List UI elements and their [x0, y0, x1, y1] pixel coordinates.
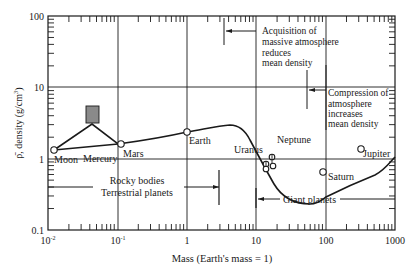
annotation-rocky-bodies: Rocky bodies Terrestrial planets	[48, 170, 219, 205]
y-axis-title: ρ̄, density (g/cm3)	[12, 87, 25, 158]
svg-text:Compression of: Compression of	[328, 88, 389, 98]
annotation-giant-planets: Giant planets	[256, 188, 395, 208]
y-tick-10: 10	[34, 82, 44, 93]
x-tick-1: 1	[185, 235, 190, 246]
y-tick-labels: 100 10 1 0.1	[29, 11, 44, 236]
label-mars: Mars	[123, 148, 144, 159]
svg-text:massive atmosphere: massive atmosphere	[262, 37, 339, 47]
mercury-range-box	[86, 106, 99, 123]
svg-text:atmosphere: atmosphere	[328, 99, 372, 109]
svg-text:reduces: reduces	[262, 48, 291, 58]
svg-text:mean density: mean density	[262, 58, 313, 68]
x-tick-1000: 1000	[385, 235, 405, 246]
x-tick-labels: 10-2 10-1 1 10 100 1000	[41, 235, 406, 246]
y-tick-100: 100	[29, 11, 44, 22]
x-tick-100: 100	[319, 235, 334, 246]
density-mass-chart: 100 10 1 0.1 10-2 10-1 1 10 100 1000 Mas…	[0, 0, 420, 272]
x-axis-title: Mass (Earth's mass = 1)	[172, 253, 273, 265]
marker-mars	[118, 141, 124, 147]
marker-moon	[51, 147, 57, 153]
marker-uranus-b	[263, 166, 269, 172]
label-jupiter: Jupiter	[363, 148, 391, 159]
label-neptune: Neptune	[277, 134, 311, 145]
marker-neptune-a	[270, 163, 276, 169]
x-tick-10: 10	[251, 235, 261, 246]
label-uranus: Uranus	[234, 144, 263, 155]
svg-text:increases: increases	[328, 109, 363, 119]
label-saturn: Saturn	[328, 171, 354, 182]
marker-saturn	[320, 169, 326, 175]
svg-text:Acquisition of: Acquisition of	[262, 26, 317, 36]
svg-text:Rocky bodies: Rocky bodies	[110, 175, 165, 186]
annotation-acquisition: Acquisition of massive atmosphere reduce…	[224, 18, 339, 68]
annotation-compression: Compression of atmosphere increases mean…	[307, 65, 389, 130]
x-tick-0.01: 10-2	[41, 235, 56, 246]
x-tick-0.1: 10-1	[111, 235, 126, 246]
planet-labels: Moon Mercury Mars Earth Uranus Neptune S…	[54, 134, 391, 182]
svg-text:mean density: mean density	[328, 119, 379, 129]
curve-segment-moon-mars	[54, 144, 118, 150]
y-tick-1: 1	[39, 154, 44, 165]
svg-text:Terrestrial planets: Terrestrial planets	[101, 187, 173, 198]
label-moon: Moon	[54, 154, 78, 165]
label-earth: Earth	[189, 135, 211, 146]
svg-text:Giant planets: Giant planets	[283, 194, 336, 205]
label-mercury: Mercury	[83, 153, 117, 164]
